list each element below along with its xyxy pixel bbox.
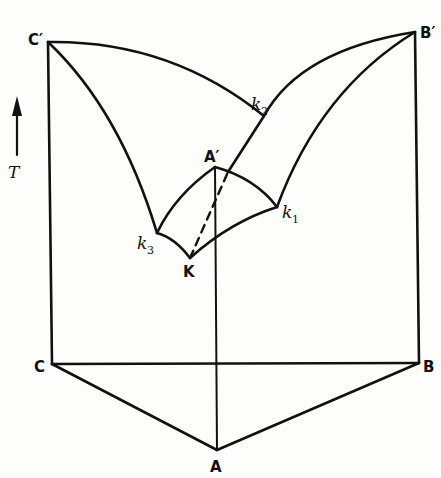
svg-text:k: k (282, 202, 292, 222)
label-b: B (423, 358, 434, 376)
label-c-prime: C′ (28, 31, 43, 49)
edge-c-a (52, 364, 217, 450)
curve-aprime-k3 (157, 167, 215, 233)
label-c: C (34, 358, 45, 376)
svg-text:1: 1 (292, 213, 299, 226)
label-a: A (210, 458, 222, 476)
curve-k3-k (157, 233, 190, 258)
edge-c-cprime (48, 42, 52, 364)
ternary-phase-diagram: T C′ B′ A′ C B A K k 1 k 2 k 3 (0, 0, 441, 478)
edge-b-bprime (415, 32, 419, 363)
curve-cprime-k3 (48, 42, 157, 233)
svg-text:k: k (137, 233, 147, 253)
temperature-arrow-icon (12, 96, 22, 116)
curve-bprime-k1 (277, 32, 415, 207)
curve-aprime-k1 (215, 167, 277, 207)
edge-a-b (217, 363, 419, 450)
label-b-prime: B′ (420, 24, 435, 42)
edge-a-aprime (215, 167, 217, 450)
curve-k1-k (190, 207, 277, 258)
svg-text:k: k (251, 94, 261, 114)
svg-text:2: 2 (261, 105, 268, 118)
temperature-label: T (8, 162, 21, 182)
label-k2: k 2 (251, 94, 268, 118)
hidden-edge-k-to-k2-valley (190, 172, 228, 258)
label-k3: k 3 (137, 233, 154, 257)
label-k1: k 1 (282, 202, 299, 226)
edge-c-b (52, 363, 419, 364)
label-a-prime: A′ (204, 148, 220, 166)
label-k-ternary-eutectic: K (183, 263, 196, 281)
svg-text:3: 3 (147, 244, 154, 257)
